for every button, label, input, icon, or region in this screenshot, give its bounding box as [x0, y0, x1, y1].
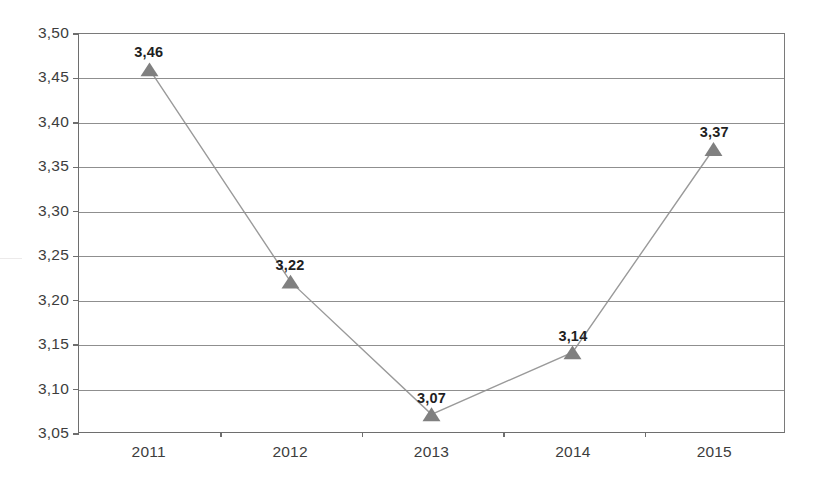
data-point-marker [564, 345, 582, 359]
data-point-label: 3,07 [417, 390, 446, 406]
gridline [79, 256, 784, 257]
y-axis-tick-mark [73, 344, 79, 345]
y-axis-tick-label: 3,40 [38, 113, 69, 131]
gridline [79, 301, 784, 302]
data-point-marker [705, 142, 723, 156]
y-axis-tick-mark [73, 167, 79, 168]
y-axis-tick-label: 3,15 [38, 335, 69, 353]
line-chart: 3,503,453,403,353,303,253,203,153,103,05… [0, 0, 817, 478]
x-axis-tick-label: 2011 [132, 443, 166, 461]
y-axis-tick-label: 3,25 [38, 246, 69, 264]
data-point-label: 3,46 [134, 44, 163, 60]
data-point-label: 3,14 [558, 328, 587, 344]
y-axis-tick-label: 3,10 [38, 380, 69, 398]
x-axis-tick-mark [220, 432, 221, 437]
data-point-marker [141, 62, 159, 76]
plot-area [78, 33, 785, 433]
y-axis-tick-label: 3,05 [38, 424, 69, 442]
scan-artifact [0, 258, 22, 259]
y-axis-tick-mark [73, 256, 79, 257]
x-axis-tick-mark [362, 432, 363, 437]
y-axis-tick-label: 3,30 [38, 202, 69, 220]
gridline [79, 167, 784, 168]
y-axis-tick-label: 3,50 [38, 24, 69, 42]
data-point-marker [282, 275, 300, 289]
gridline [79, 123, 784, 124]
data-point-label: 3,22 [276, 257, 305, 273]
gridline [79, 212, 784, 213]
y-axis-tick-mark [73, 300, 79, 301]
series-line-layer [79, 34, 784, 432]
y-axis-tick-label: 3,20 [38, 291, 69, 309]
x-axis-tick-mark [503, 432, 504, 437]
y-axis-tick-mark [73, 433, 79, 434]
y-axis-tick-label: 3,35 [38, 157, 69, 175]
data-point-marker [423, 407, 441, 421]
y-axis-tick-mark [73, 33, 79, 34]
y-axis-tick-mark [73, 211, 79, 212]
x-axis-tick-mark [645, 432, 646, 437]
y-axis-tick-label: 3,45 [38, 68, 69, 86]
x-axis-tick-label: 2012 [272, 443, 307, 461]
y-axis-tick-mark [73, 389, 79, 390]
y-axis-tick-mark [73, 122, 79, 123]
x-axis-tick-label: 2015 [697, 443, 732, 461]
data-point-label: 3,37 [700, 124, 729, 140]
gridline [79, 78, 784, 79]
series-line [150, 69, 714, 414]
x-axis-tick-label: 2013 [414, 443, 449, 461]
x-axis-tick-label: 2014 [555, 443, 590, 461]
y-axis-tick-mark [73, 78, 79, 79]
gridline [79, 345, 784, 346]
